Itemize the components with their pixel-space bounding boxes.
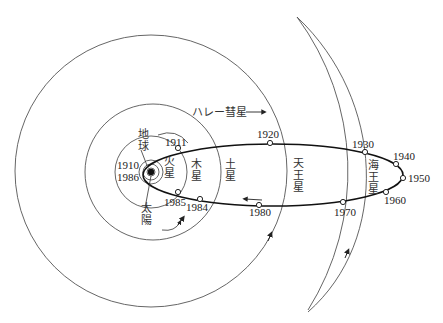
point-1985 (175, 189, 180, 194)
point-1940 (393, 161, 398, 166)
mars-label-2: 星 (164, 167, 175, 180)
year-1970-label: 1970 (334, 206, 357, 218)
point-1950 (400, 175, 405, 180)
year-1980-label: 1980 (249, 206, 272, 218)
year-1920-label: 1920 (257, 128, 280, 140)
earth-label-2: 球 (138, 139, 149, 153)
neptune-direction-arrow (345, 251, 348, 258)
neptune-label-3: 星 (368, 183, 379, 196)
saturn-label-2: 星 (225, 170, 236, 183)
orbit-svg: 1911 1920 1930 1940 1950 1960 1970 1980 … (0, 0, 443, 323)
uranus-label-3: 星 (293, 181, 304, 194)
point-1920 (267, 140, 272, 145)
halley-orbit-diagram: 1911 1920 1930 1940 1950 1960 1970 1980 … (0, 0, 443, 323)
uranus-orbit (297, 17, 348, 310)
saturn-direction-arrow (268, 234, 271, 241)
point-1930 (362, 149, 367, 154)
year-1950-label: 1950 (408, 172, 431, 184)
neptune-label-1: 海 (368, 158, 379, 172)
year-1985-label: 1985 (164, 196, 187, 208)
year-1911-label: 1911 (165, 136, 187, 148)
year-1930-label: 1930 (352, 138, 375, 150)
point-1970 (340, 199, 345, 204)
year-1960-label: 1960 (384, 194, 407, 206)
sun-dot (148, 169, 154, 175)
jupiter-label-2: 星 (191, 170, 202, 183)
year-1940-label: 1940 (393, 150, 416, 162)
sun-label-2: 陽 (141, 214, 152, 227)
year-1984-label: 1984 (186, 201, 209, 213)
year-1986-label: 1986 (117, 171, 140, 183)
year-1910-label: 1910 (117, 159, 140, 171)
comet-direction-arrow-bottom (245, 199, 262, 200)
halley-comet-label: ハレー彗星 (192, 106, 247, 119)
neptune-orbit (297, 17, 366, 312)
sun-leader-line (162, 222, 180, 230)
